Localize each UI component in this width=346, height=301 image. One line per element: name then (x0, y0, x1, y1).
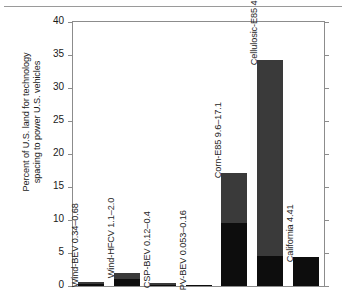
y-axis-tick-mark (324, 121, 329, 122)
bar-segment-low (221, 223, 247, 286)
y-axis-tick-label: 20 (30, 148, 64, 158)
y-axis-tick-label: 5 (30, 247, 64, 257)
plot-area: Wind-BEV 0.34–0.68Wind-HFCV 1.1–2.0CSP-B… (72, 21, 325, 287)
y-axis-tick-label: 40 (30, 16, 64, 26)
y-axis-tick-mark (68, 187, 73, 188)
bar-segment-high (257, 60, 283, 256)
y-axis-tick-mark (324, 220, 329, 221)
y-axis-tick-mark (324, 253, 329, 254)
figure-canvas: Percent of U.S. land for technology spac… (0, 0, 346, 301)
y-axis-tick-label: 10 (30, 214, 64, 224)
bar-segment-low (257, 256, 283, 286)
bar[interactable] (78, 282, 104, 286)
y-axis-tick-mark (324, 22, 329, 23)
bar-label: Wind-BEV 0.34–0.68 (71, 203, 80, 287)
bar[interactable] (114, 273, 140, 286)
y-axis-tick-label: 35 (30, 49, 64, 59)
y-axis-tick-mark (68, 154, 73, 155)
y-axis-tick-mark (324, 154, 329, 155)
bar-label: California 4.41 (286, 204, 295, 262)
bar-segment-low (78, 284, 104, 286)
bar[interactable] (150, 283, 176, 286)
bar-segment-low (150, 285, 176, 286)
y-axis-tick-label: 0 (30, 280, 64, 290)
figure-top-rule (4, 6, 342, 7)
bar[interactable] (293, 257, 319, 286)
y-axis-tick-mark (68, 55, 73, 56)
y-axis-tick-mark (324, 187, 329, 188)
bar-label: Cellulosic-E85 4.6–34.3 (250, 0, 259, 65)
bar-label: PV-BEV 0.053–0.16 (178, 210, 187, 290)
y-axis-tick-mark (324, 55, 329, 56)
bar[interactable] (186, 285, 212, 286)
bar-segment-low (293, 257, 319, 286)
bar-segment-low (114, 279, 140, 286)
y-axis-tick-label: 25 (30, 115, 64, 125)
y-axis-tick-label: 15 (30, 181, 64, 191)
bar[interactable] (221, 173, 247, 286)
bar-label: Corn-E85 9.6–17.1 (214, 102, 223, 178)
bar-segment-low (186, 285, 212, 286)
bar-segment-high (221, 173, 247, 223)
y-axis-tick-mark (324, 286, 329, 287)
bar[interactable] (257, 60, 283, 286)
bar-label: CSP-BEV 0.12–0.4 (142, 212, 151, 289)
y-axis-tick-label: 30 (30, 82, 64, 92)
y-axis-tick-mark (324, 88, 329, 89)
y-axis-tick-mark (68, 121, 73, 122)
y-axis-tick-mark (68, 22, 73, 23)
bar-label: Wind-HFCV 1.1–2.0 (107, 197, 116, 278)
y-axis-tick-mark (68, 88, 73, 89)
